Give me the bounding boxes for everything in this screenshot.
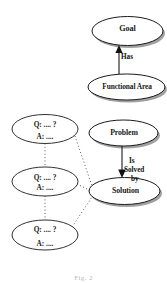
qa2-ellipse [12, 167, 78, 196]
qa1-ellipse [12, 115, 78, 144]
diagram-canvas: Goal ("Has") --> Solution ("Is Solved by… [0, 0, 167, 283]
edge-is-solved-by-arrowhead [118, 170, 126, 179]
qa-node-outlines [12, 115, 78, 251]
edge-qa3-solution [72, 197, 92, 227]
qa3-ellipse [12, 220, 78, 250]
figure-diagram: Goal ("Has") --> Solution ("Is Solved by… [0, 0, 167, 283]
node-fills [88, 17, 165, 205]
solid-edges: Goal ("Has") --> Solution ("Is Solved by… [115, 45, 125, 178]
